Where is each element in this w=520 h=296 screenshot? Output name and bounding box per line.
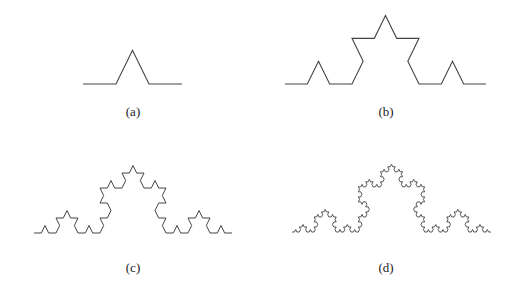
panel-label-d: (d): [378, 260, 393, 276]
koch-curve-a: [83, 50, 182, 84]
koch-curve-figure: [0, 0, 520, 296]
koch-curve-d: [292, 164, 491, 232]
panel-label-a: (a): [126, 104, 140, 120]
koch-curve-c: [34, 166, 232, 233]
koch-curve-b: [285, 16, 486, 84]
panel-label-c: (c): [126, 260, 140, 276]
panel-label-b: (b): [378, 104, 393, 120]
